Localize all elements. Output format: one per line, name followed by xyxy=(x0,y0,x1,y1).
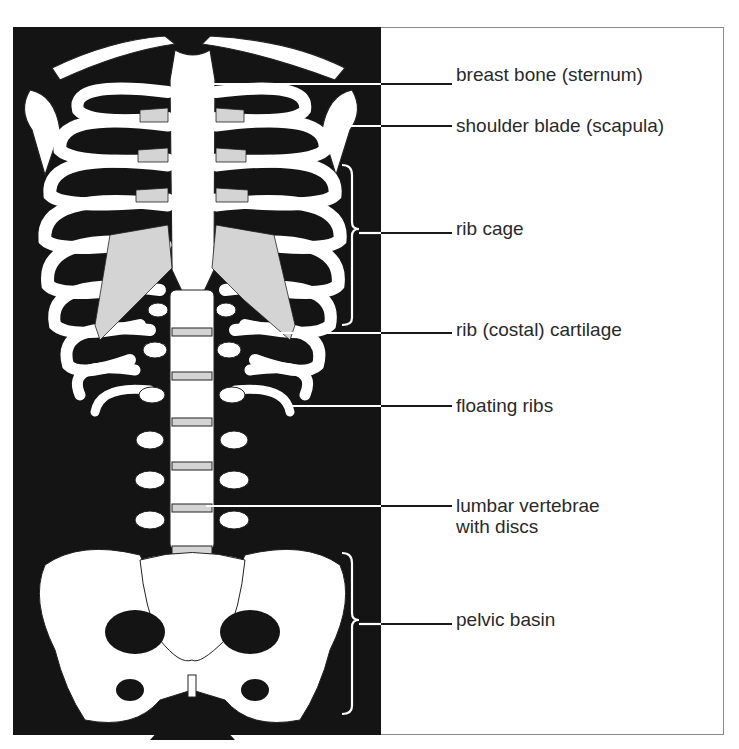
label-lumbar-vertebrae: lumbar vertebrae xyxy=(456,496,600,516)
label-sternum: breast bone (sternum) xyxy=(456,65,643,85)
brackets xyxy=(342,165,359,714)
rib-cage-bracket xyxy=(342,165,359,325)
label-pelvic-basin: pelvic basin xyxy=(456,610,555,630)
clavicle-left xyxy=(52,36,175,80)
skeleton-illustration xyxy=(0,0,739,749)
pelvic-basin-bracket xyxy=(342,553,359,714)
label-lumbar-vertebrae-line2: with discs xyxy=(456,517,538,537)
sternum xyxy=(170,50,215,300)
scapula-left xyxy=(24,90,60,175)
label-scapula: shoulder blade (scapula) xyxy=(456,116,664,136)
label-costal-cartilage: rib (costal) cartilage xyxy=(456,320,622,340)
pelvis xyxy=(39,549,345,740)
clavicle-right xyxy=(202,36,345,80)
label-rib-cage: rib cage xyxy=(456,219,524,239)
label-floating-ribs: floating ribs xyxy=(456,396,553,416)
